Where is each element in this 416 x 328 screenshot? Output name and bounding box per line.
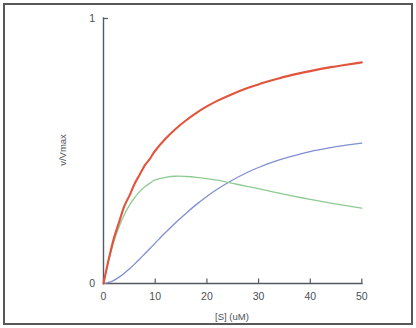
chart-svg: 1 0 0 10 20 30 40 50 [S] (uM) v/Vmax bbox=[0, 0, 416, 328]
x-tick-label-50: 50 bbox=[356, 290, 368, 302]
x-tick-label-30: 30 bbox=[253, 290, 265, 302]
y-axis-title: v/Vmax bbox=[57, 134, 68, 166]
x-tick-label-20: 20 bbox=[201, 290, 213, 302]
series-line-michaelis-menten bbox=[104, 62, 362, 283]
series-line-cooperative-sigmoid bbox=[104, 143, 362, 283]
chart-canvas: 1 0 0 10 20 30 40 50 [S] (uM) v/Vmax bbox=[0, 0, 416, 328]
series-line-substrate-inhibition bbox=[104, 176, 362, 283]
x-axis-title: [S] (uM) bbox=[215, 311, 249, 322]
y-tick-label-bottom: 0 bbox=[89, 277, 95, 289]
y-tick-label-top: 1 bbox=[89, 12, 95, 24]
x-tick-label-0: 0 bbox=[101, 290, 107, 302]
x-tick-label-40: 40 bbox=[304, 290, 316, 302]
x-tick-label-10: 10 bbox=[149, 290, 161, 302]
x-axis-ticks bbox=[104, 279, 362, 284]
data-series-group bbox=[104, 62, 362, 283]
